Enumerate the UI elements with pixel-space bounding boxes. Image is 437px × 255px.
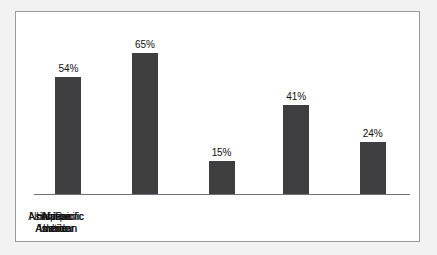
bar-rect[interactable] bbox=[209, 161, 235, 194]
bar-rect[interactable] bbox=[283, 105, 309, 194]
bar-rect[interactable] bbox=[132, 53, 158, 194]
category-label-line: Nonhispanic bbox=[16, 211, 97, 223]
bar-group[interactable]: 65% bbox=[105, 39, 186, 194]
category-label-nonhispanic-white: Nonhispanic white bbox=[16, 211, 97, 235]
bar-value-label: 65% bbox=[135, 39, 155, 50]
bar-group[interactable]: 41% bbox=[256, 91, 337, 194]
category-label-line: white bbox=[16, 223, 97, 235]
x-axis-line bbox=[34, 194, 410, 195]
bar-value-label: 24% bbox=[363, 128, 383, 139]
bar-rect[interactable] bbox=[55, 77, 81, 194]
chart-figure: 54% 65% 15% 41% 24% Native American Afri… bbox=[15, 11, 420, 242]
bar-group[interactable]: 15% bbox=[181, 147, 262, 194]
bar-value-label: 15% bbox=[212, 147, 232, 158]
bar-group[interactable]: 54% bbox=[28, 63, 109, 194]
bar-value-label: 41% bbox=[286, 91, 306, 102]
bar-rect[interactable] bbox=[360, 142, 386, 194]
bar-value-label: 54% bbox=[59, 63, 79, 74]
bar-group[interactable]: 24% bbox=[332, 128, 413, 194]
plot-area: 54% 65% 15% 41% 24% Native American Afri… bbox=[16, 12, 419, 241]
